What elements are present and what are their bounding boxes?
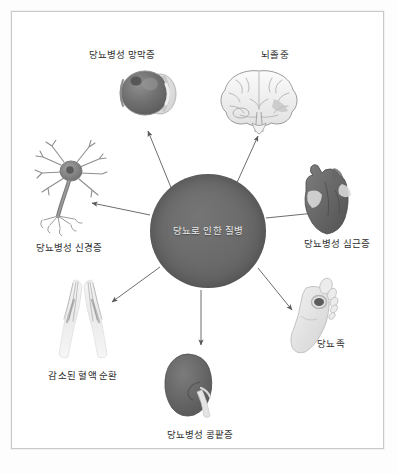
- figure-page: 당뇨로 인한 질병 당뇨병성 망막증 뇌졸중 당뇨병성 신경증 당뇨병성 심근증…: [0, 0, 397, 474]
- eye-illustration: [114, 62, 186, 124]
- arrow-to-retinopathy: [148, 131, 172, 190]
- label-cardiomyopathy: 당뇨병성 심근증: [283, 239, 391, 249]
- label-retinopathy: 당뇨병성 망막증: [62, 50, 182, 60]
- center-node-label: 당뇨로 인한 질병: [150, 223, 266, 237]
- label-circulation: 감소된 혈액 순환: [27, 371, 139, 381]
- label-neuropathy: 당뇨병성 신경증: [14, 243, 124, 253]
- label-stroke: 뇌졸중: [230, 50, 320, 60]
- legs-illustration: [52, 278, 118, 362]
- center-node[interactable]: 당뇨로 인한 질병: [150, 174, 266, 288]
- heart-illustration: [298, 162, 360, 240]
- neuron-illustration: [34, 140, 108, 236]
- arrow-to-circulation: [112, 267, 160, 302]
- label-diabetic-foot: 당뇨족: [296, 339, 366, 349]
- kidney-illustration: [160, 352, 222, 424]
- arrow-to-stroke: [235, 136, 258, 187]
- label-nephropathy: 당뇨병성 콩팥증: [141, 430, 259, 440]
- brain-illustration: [216, 66, 302, 138]
